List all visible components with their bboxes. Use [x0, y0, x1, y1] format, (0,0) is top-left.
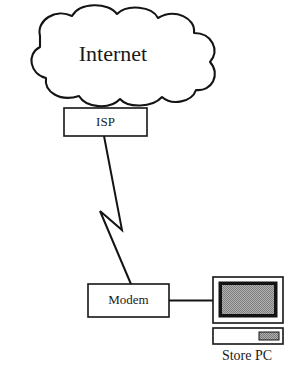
diagram-canvas: Internet ISP Modem — [0, 0, 289, 369]
node-isp[interactable]: ISP — [64, 108, 147, 136]
store-pc-label: Store PC — [222, 348, 272, 363]
modem-label: Modem — [108, 292, 148, 307]
isp-label: ISP — [96, 114, 115, 129]
node-store-pc[interactable]: Store PC — [213, 277, 283, 363]
lightning-bolt-line — [100, 136, 136, 296]
network-diagram: Internet ISP Modem — [0, 0, 289, 369]
pc-drive-slot — [259, 332, 279, 340]
node-modem[interactable]: Modem — [88, 284, 169, 317]
node-internet-cloud[interactable]: Internet — [31, 5, 214, 106]
cloud-label: Internet — [79, 41, 147, 66]
connection-isp-to-modem[interactable] — [100, 136, 136, 296]
monitor-screen — [222, 285, 274, 314]
